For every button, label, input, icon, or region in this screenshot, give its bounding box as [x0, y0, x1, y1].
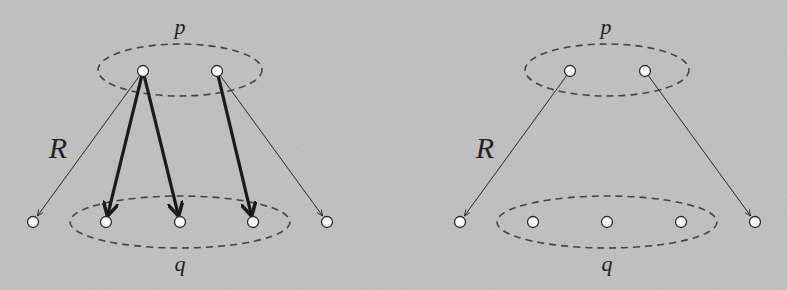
left-top-set-label: p — [175, 16, 186, 38]
left-q-node — [28, 217, 39, 228]
right-relation-label: R — [476, 133, 494, 163]
right-p-node — [640, 66, 651, 77]
left-q-node — [101, 217, 112, 228]
right-q-node — [602, 217, 613, 228]
right-top-set-label: p — [601, 16, 612, 38]
right-p-node — [565, 66, 576, 77]
relation-diagram — [0, 0, 787, 290]
left-q-node — [175, 217, 186, 228]
right-bottom-set-label: q — [602, 253, 613, 275]
left-p-node — [138, 66, 149, 77]
right-q-node — [676, 217, 687, 228]
diagram-canvas: p q R p q R — [0, 0, 787, 290]
right-q-node — [750, 217, 761, 228]
left-q-node — [322, 217, 333, 228]
left-bottom-set-label: q — [175, 253, 186, 275]
left-p-node — [212, 66, 223, 77]
left-q-node — [248, 217, 259, 228]
right-q-node — [528, 217, 539, 228]
left-relation-label: R — [49, 133, 67, 163]
background-texture — [0, 0, 787, 290]
right-q-node — [455, 217, 466, 228]
